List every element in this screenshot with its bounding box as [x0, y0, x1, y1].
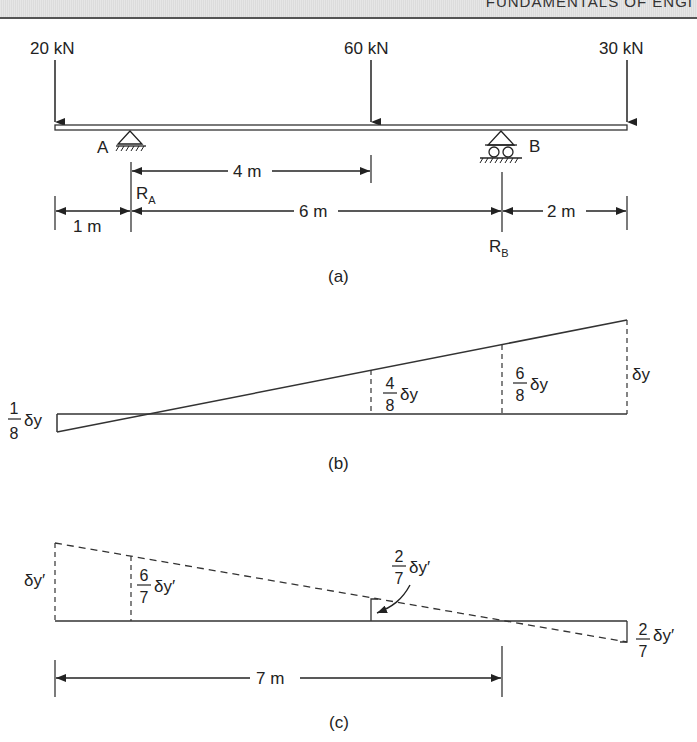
svg-text:2: 2 — [395, 548, 404, 565]
figure-a-caption: (a) — [328, 267, 349, 286]
beam-diagram: 20 kN 60 kN 30 kN A — [0, 0, 697, 742]
svg-text:δy: δy — [24, 411, 42, 430]
ordinate-2-7 — [371, 599, 378, 621]
dimension-2m: 2 m — [503, 202, 626, 221]
dimension-label-4m: 4 m — [233, 162, 261, 181]
label-2-7-dy-prime-right: 2 7 δy′ — [636, 621, 674, 660]
dimension-label-6m: 6 m — [299, 202, 327, 221]
load-label-30kn: 30 kN — [599, 39, 643, 58]
svg-text:1: 1 — [10, 400, 19, 417]
svg-text:δy′: δy′ — [154, 577, 175, 596]
label-2-7-dy-prime-mid: 2 7 δy′ — [392, 548, 430, 587]
figure-c-caption: (c) — [329, 713, 349, 732]
support-a-pin-icon — [116, 131, 146, 151]
svg-text:6: 6 — [516, 365, 525, 382]
svg-text:2: 2 — [639, 621, 648, 638]
right-end-tick — [620, 621, 627, 642]
dimension-6m: 6 m — [132, 202, 501, 221]
svg-text:8: 8 — [386, 397, 395, 414]
dimension-1m: 1 m — [56, 211, 130, 236]
label-4-8-dy: 4 8 δy — [383, 375, 418, 414]
svg-text:δy′: δy′ — [409, 558, 430, 577]
svg-text:6: 6 — [140, 567, 149, 584]
support-b-label: B — [529, 137, 540, 156]
label-1-8-dy: 1 8 δy — [8, 400, 42, 442]
dimension-label-2m: 2 m — [547, 202, 575, 221]
label-dy-prime: δy′ — [24, 571, 45, 590]
figure-b: 1 8 δy 4 8 δy 6 8 δy δy (b) — [8, 320, 650, 473]
support-b-roller-icon — [480, 131, 522, 163]
load-20kn: 20 kN — [30, 39, 74, 122]
leader-arrow-icon — [377, 585, 410, 613]
svg-text:δy′: δy′ — [653, 626, 674, 645]
dimension-4m: 4 m — [132, 162, 370, 181]
load-30kn: 30 kN — [599, 39, 643, 122]
beam — [55, 125, 627, 130]
svg-text:7: 7 — [395, 570, 404, 587]
figure-a: 20 kN 60 kN 30 kN A — [30, 39, 643, 286]
svg-text:7: 7 — [639, 643, 648, 660]
svg-text:8: 8 — [10, 425, 19, 442]
label-6-7-dy-prime: 6 7 δy′ — [137, 567, 175, 606]
reaction-ra-label: RA — [136, 184, 156, 206]
svg-text:δy: δy — [400, 385, 418, 404]
svg-text:7: 7 — [140, 589, 149, 606]
support-a-label: A — [97, 138, 109, 157]
reaction-rb-label: RB — [489, 237, 509, 259]
figure-c: δy′ 6 7 δy′ 2 7 δy′ 2 7 δy′ 7 m — [24, 543, 674, 732]
figure-b-caption: (b) — [328, 454, 349, 473]
load-label-60kn: 60 kN — [344, 39, 388, 58]
svg-text:δy: δy — [530, 375, 548, 394]
dimension-7m: 7 m — [55, 646, 502, 697]
label-dy: δy — [632, 365, 650, 384]
load-label-20kn: 20 kN — [30, 39, 74, 58]
load-60kn: 60 kN — [344, 39, 388, 122]
dimension-label-1m: 1 m — [73, 217, 101, 236]
svg-text:8: 8 — [516, 387, 525, 404]
label-6-8-dy: 6 8 δy — [513, 365, 548, 404]
svg-text:4: 4 — [386, 375, 395, 392]
dimension-label-7m: 7 m — [256, 669, 284, 688]
